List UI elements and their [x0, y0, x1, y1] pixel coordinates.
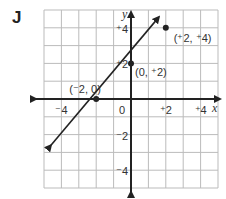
- data-point: [93, 96, 99, 102]
- y-tick-label: ⁺2: [116, 58, 128, 70]
- point-label: (0, ⁺2): [135, 66, 167, 78]
- point-label: (⁻2, 0): [69, 83, 101, 95]
- y-axis-label: y: [121, 7, 128, 21]
- y-tick-label: ⁻4: [116, 165, 128, 177]
- data-point: [163, 25, 169, 31]
- data-point: [128, 60, 134, 66]
- x-tick-label: ⁻4: [55, 104, 67, 116]
- x-axis-label: x: [211, 101, 218, 115]
- tick-labels: (⁻2, 0)(0, ⁺2)(⁺2, ⁺4)⁻40⁺2⁺4⁺4⁺2⁻2⁻4xy: [55, 7, 218, 177]
- coordinate-graph: (⁻2, 0)(0, ⁺2)(⁺2, ⁺4)⁻40⁺2⁺4⁺4⁺2⁻2⁻4xy: [0, 0, 226, 199]
- point-label: (⁺2, ⁺4): [174, 32, 212, 44]
- y-tick-label: ⁻2: [116, 130, 128, 142]
- y-tick-label: ⁺4: [116, 23, 128, 35]
- x-tick-label: ⁺4: [195, 104, 207, 116]
- x-tick-label: 0: [119, 104, 125, 116]
- x-tick-label: ⁺2: [160, 104, 172, 116]
